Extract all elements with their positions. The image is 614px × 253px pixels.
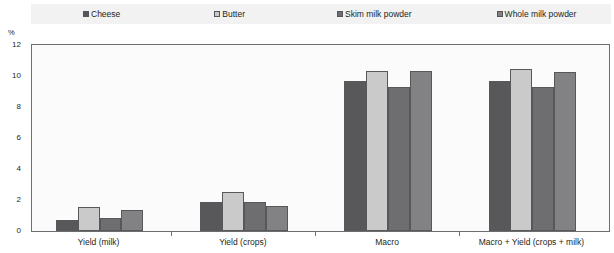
x-axis-labels: Yield (milk)Yield (crops)MacroMacro + Yi… (31, 238, 610, 252)
bar-butter-macro-yield-crops-milk-[interactable] (510, 69, 532, 231)
bar-whole-milk-powder-macro-yield-crops-milk-[interactable] (554, 72, 576, 231)
y-axis-unit-label: % (8, 28, 15, 37)
y-axis-tick-label: 6 (17, 134, 21, 142)
x-axis-tick-label: Yield (milk) (78, 238, 120, 247)
x-axis-tick (459, 232, 460, 236)
legend-swatch-icon (337, 11, 343, 17)
legend-item-label: Whole milk powder (505, 10, 577, 19)
legend-item-label: Cheese (91, 10, 120, 19)
bar-skim-milk-powder-macro[interactable] (388, 87, 410, 231)
legend-item-label: Skim milk powder (345, 10, 412, 19)
bar-chart: Cheese Butter Skim milk powder Whole mil… (0, 0, 614, 253)
bar-skim-milk-powder-macro-yield-crops-milk-[interactable] (532, 87, 554, 231)
legend-swatch-icon (83, 11, 89, 17)
legend-swatch-icon (214, 11, 220, 17)
bar-whole-milk-powder-yield-milk-[interactable] (121, 210, 143, 231)
bar-cheese-macro-yield-crops-milk-[interactable] (489, 81, 511, 231)
bar-whole-milk-powder-yield-crops-[interactable] (266, 206, 288, 231)
y-axis-tick-label: 4 (17, 165, 21, 173)
bar-butter-yield-crops-[interactable] (222, 192, 244, 231)
y-axis-tick-label: 2 (17, 196, 21, 204)
legend-swatch-icon (497, 11, 503, 17)
legend-item-skim-milk-powder[interactable]: Skim milk powder (337, 10, 412, 19)
bar-skim-milk-powder-yield-crops-[interactable] (244, 202, 266, 231)
legend-item-label: Butter (222, 10, 245, 19)
legend-item-whole-milk-powder[interactable]: Whole milk powder (497, 10, 577, 19)
x-axis-tick (171, 232, 172, 236)
bar-butter-macro[interactable] (366, 71, 388, 231)
y-axis-tick-label: 0 (17, 227, 21, 235)
chart-legend: Cheese Butter Skim milk powder Whole mil… (31, 4, 611, 24)
plot-area (31, 44, 610, 232)
bar-cheese-yield-crops-[interactable] (200, 202, 222, 231)
y-axis-labels: 024681012 (0, 44, 26, 232)
y-axis-tick-label: 10 (12, 72, 21, 80)
bar-cheese-macro[interactable] (344, 81, 366, 231)
y-axis-tick-label: 12 (12, 41, 21, 49)
legend-item-butter[interactable]: Butter (214, 10, 245, 19)
bars-layer (32, 45, 609, 231)
bar-skim-milk-powder-yield-milk-[interactable] (100, 218, 122, 231)
x-axis-tick-label: Macro + Yield (crops + milk) (479, 238, 584, 247)
legend-item-cheese[interactable]: Cheese (83, 10, 120, 19)
x-axis-tick (315, 232, 316, 236)
x-axis-tick-label: Macro (375, 238, 399, 247)
bar-whole-milk-powder-macro[interactable] (410, 71, 432, 231)
bar-cheese-yield-milk-[interactable] (56, 220, 78, 231)
x-axis-tick-label: Yield (crops) (219, 238, 266, 247)
bar-butter-yield-milk-[interactable] (78, 207, 100, 231)
y-axis-tick-label: 8 (17, 103, 21, 111)
